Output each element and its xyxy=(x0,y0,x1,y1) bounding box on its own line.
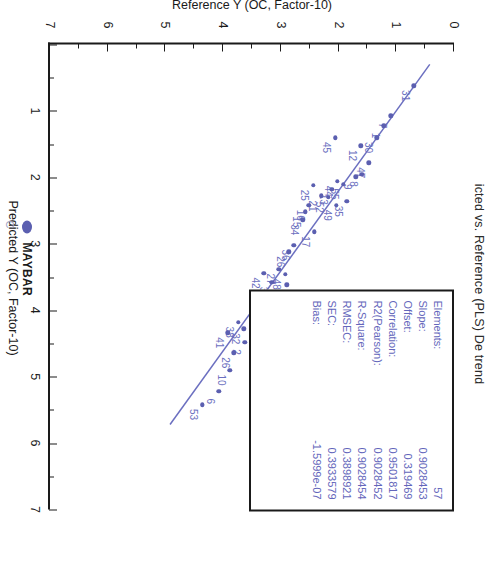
data-point[interactable] xyxy=(261,270,266,275)
data-point[interactable] xyxy=(329,187,334,192)
data-point[interactable] xyxy=(231,350,236,355)
data-point[interactable] xyxy=(366,160,371,165)
data-point[interactable] xyxy=(242,326,247,331)
data-point[interactable] xyxy=(354,174,359,179)
data-point[interactable] xyxy=(312,229,317,234)
statistic-key: Elements: xyxy=(430,300,445,349)
data-point[interactable] xyxy=(319,193,324,198)
y-tick xyxy=(49,43,50,51)
legend-marker-icon xyxy=(22,220,32,233)
data-point-label: 34 xyxy=(288,224,299,235)
y-tick xyxy=(453,43,454,51)
statistic-row: Correlation:0.9501817 xyxy=(385,300,400,499)
data-point[interactable] xyxy=(311,183,316,188)
data-point[interactable] xyxy=(334,202,339,207)
statistic-row: R2(Pearson):0.9028452 xyxy=(369,300,384,499)
data-point[interactable] xyxy=(344,198,349,203)
data-point[interactable] xyxy=(225,330,230,335)
x-tick xyxy=(49,509,57,510)
x-tick-minor xyxy=(49,210,54,211)
data-point[interactable] xyxy=(287,249,292,254)
data-point[interactable] xyxy=(216,388,221,393)
data-point[interactable] xyxy=(283,272,288,277)
y-tick-label: 5 xyxy=(158,21,172,28)
data-point[interactable] xyxy=(411,83,416,88)
data-point-label: 41 xyxy=(213,337,224,348)
data-point[interactable] xyxy=(358,143,363,148)
y-tick xyxy=(338,43,339,51)
statistic-value: 0.9501817 xyxy=(385,447,400,499)
data-point[interactable] xyxy=(200,402,205,407)
statistic-row: Bias:-1.5999e-07 xyxy=(309,300,324,499)
x-tick-minor xyxy=(49,277,54,278)
data-point[interactable] xyxy=(374,135,379,140)
y-tick-label: 0 xyxy=(447,21,461,28)
data-point[interactable] xyxy=(306,202,311,207)
x-tick xyxy=(49,443,57,444)
x-tick xyxy=(49,110,57,111)
data-point-label: 42 xyxy=(249,277,260,288)
x-tick xyxy=(49,243,57,244)
statistic-value: -1.5999e-07 xyxy=(309,440,324,499)
statistic-row: Offset:0.319469 xyxy=(400,300,415,499)
data-point[interactable] xyxy=(341,181,346,186)
y-tick-label: 2 xyxy=(332,21,346,28)
statistic-value: 0.319469 xyxy=(400,453,415,499)
y-tick-label: 7 xyxy=(43,21,57,28)
y-tick-minor xyxy=(193,43,194,48)
statistic-value: 57 xyxy=(430,487,445,499)
y-tick-minor xyxy=(251,43,252,48)
legend-item-maybar[interactable]: MAYBAR xyxy=(20,220,34,295)
statistic-row: Slope:0.9028453 xyxy=(415,300,430,499)
y-tick-minor xyxy=(424,43,425,48)
y-tick xyxy=(395,43,396,51)
statistics-box: Elements:57Slope:0.9028453Offset:0.31946… xyxy=(250,289,455,511)
statistic-key: Bias: xyxy=(309,300,324,324)
data-point[interactable] xyxy=(236,319,241,324)
statistic-key: Offset: xyxy=(400,300,415,332)
data-point-label: 45 xyxy=(321,141,332,152)
data-point-label: 49 xyxy=(322,209,333,220)
data-point-label: 17 xyxy=(300,236,311,247)
data-point[interactable] xyxy=(301,217,306,222)
data-point[interactable] xyxy=(276,266,281,271)
statistic-value: 0.3898921 xyxy=(339,447,354,499)
data-point-label: 26 xyxy=(274,256,285,267)
y-tick-label: 6 xyxy=(101,21,115,28)
y-tick xyxy=(222,43,223,51)
legend-sub-label: C xyxy=(4,220,16,228)
y-tick xyxy=(107,43,108,51)
y-tick xyxy=(164,43,165,51)
data-point[interactable] xyxy=(228,367,233,372)
data-point[interactable] xyxy=(243,339,248,344)
x-tick xyxy=(49,376,57,377)
statistic-value: 0.9028454 xyxy=(354,447,369,499)
legend-label: MAYBAR xyxy=(20,242,34,295)
data-point-label: 53 xyxy=(188,408,199,419)
y-tick-minor xyxy=(136,43,137,48)
x-tick-minor xyxy=(49,144,54,145)
chart-title: icted vs. Reference (PLS) De trend xyxy=(472,0,486,567)
data-point[interactable] xyxy=(359,171,364,176)
data-point[interactable] xyxy=(269,280,274,285)
y-axis-title: Reference Y (OC, Factor-10) xyxy=(172,0,332,11)
data-point[interactable] xyxy=(333,135,338,140)
statistic-row: R-Square:0.9028454 xyxy=(354,300,369,499)
statistic-key: R-Square: xyxy=(354,300,369,350)
data-point[interactable] xyxy=(381,123,386,128)
data-point[interactable] xyxy=(326,194,331,199)
data-point[interactable] xyxy=(303,209,308,214)
y-tick-label: 1 xyxy=(389,21,403,28)
statistic-key: RMSEC: xyxy=(339,300,354,343)
statistic-row: RMSEC:0.3898921 xyxy=(339,300,354,499)
data-point[interactable] xyxy=(388,113,393,118)
x-tick xyxy=(49,177,57,178)
data-point[interactable] xyxy=(291,242,296,247)
data-point[interactable] xyxy=(284,282,289,287)
statistic-value: 0.9028453 xyxy=(415,447,430,499)
statistic-row: Elements:57 xyxy=(430,300,445,499)
statistic-value: 0.9028452 xyxy=(369,447,384,499)
y-tick-label: 4 xyxy=(216,21,230,28)
data-point[interactable] xyxy=(335,179,340,184)
statistic-value: 0.3933579 xyxy=(324,447,339,499)
